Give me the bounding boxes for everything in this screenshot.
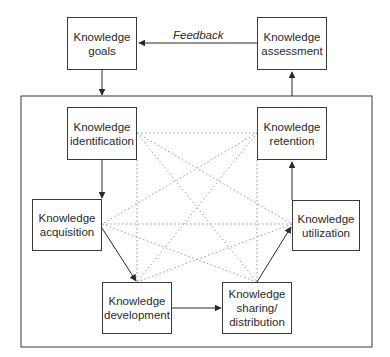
node-label: Knowledge assessment [261, 30, 322, 58]
sharing-to-utilization-arrow [257, 227, 291, 282]
node-label: Knowledge utilization [298, 212, 355, 240]
node-label: Knowledge identification [70, 120, 134, 148]
node-knowledge-retention: Knowledge retention [257, 107, 327, 160]
node-knowledge-assessment: Knowledge assessment [257, 17, 327, 70]
node-label: Knowledge retention [264, 120, 321, 148]
acquisition-to-development-arrow [102, 228, 136, 281]
node-knowledge-utilization: Knowledge utilization [292, 200, 360, 251]
diagram-connectors [0, 0, 390, 357]
feedback-label: Feedback [173, 29, 224, 41]
node-label: Knowledge sharing/ distribution [229, 287, 286, 329]
node-knowledge-acquisition: Knowledge acquisition [32, 199, 102, 251]
node-label: Knowledge development [104, 294, 170, 322]
node-knowledge-development: Knowledge development [102, 282, 172, 334]
node-knowledge-identification: Knowledge identification [67, 107, 137, 160]
node-label: Knowledge acquisition [39, 211, 96, 239]
node-knowledge-goals: Knowledge goals [67, 17, 137, 70]
node-label: Knowledge goals [74, 30, 131, 58]
node-knowledge-sharing: Knowledge sharing/ distribution [222, 282, 292, 334]
